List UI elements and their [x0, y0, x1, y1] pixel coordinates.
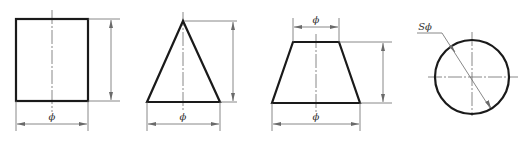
diameter-label: ϕ — [49, 111, 56, 122]
cone-outline — [147, 21, 220, 102]
truncated-cone-view: ϕ ϕ — [272, 14, 392, 131]
sphere-diameter-label: Sϕ — [418, 21, 432, 32]
bottom-diameter-label: ϕ — [313, 111, 320, 122]
top-diameter-label: ϕ — [313, 14, 320, 25]
geometric-solids-diagram: ϕ ϕ ϕ ϕ Sϕ — [0, 0, 527, 145]
sphere-view: Sϕ — [417, 21, 518, 116]
diameter-label: ϕ — [180, 111, 187, 122]
cylinder-view: ϕ — [16, 10, 120, 131]
cone-view: ϕ — [147, 12, 237, 131]
